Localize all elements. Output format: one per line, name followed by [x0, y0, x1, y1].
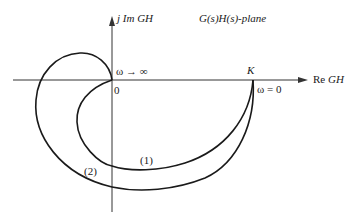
plane-title: G(s)H(s)-plane	[199, 13, 266, 24]
nyquist-diagram	[0, 0, 358, 220]
curve-2-label: (2)	[84, 166, 97, 177]
origin-label: 0	[114, 85, 120, 96]
imag-axis-label: j Im GH	[117, 13, 153, 24]
real-axis-label-prefix: Re	[313, 73, 328, 85]
real-axis-label: Re GH	[313, 74, 344, 85]
imag-axis-label-prefix: j Im	[117, 12, 137, 24]
imag-axis-label-var: GH	[137, 12, 153, 24]
imag-axis-arrow-icon	[109, 16, 115, 26]
omega-zero-label: ω = 0	[257, 84, 281, 95]
real-axis-arrow-icon	[298, 77, 308, 83]
real-axis-label-var: GH	[328, 73, 344, 85]
k-label: K	[247, 65, 254, 76]
curve-1-label: (1)	[140, 155, 153, 166]
curve-1	[77, 80, 253, 170]
omega-infinity-label: ω → ∞	[116, 66, 148, 77]
